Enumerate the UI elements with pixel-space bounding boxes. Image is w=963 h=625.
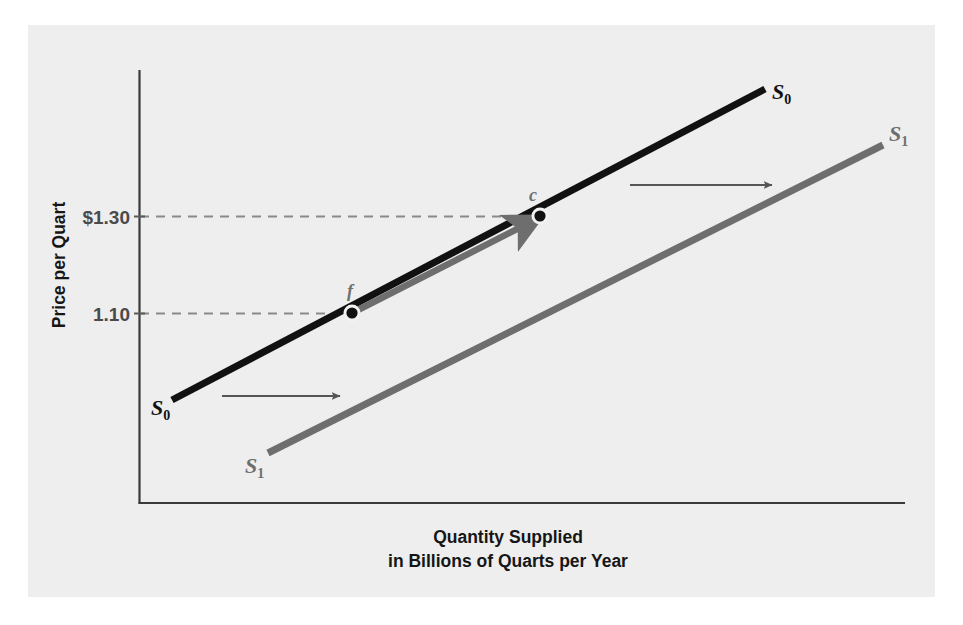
curve-label-s1-end: S1: [889, 121, 908, 149]
y-tick-labels-group: $1.30 1.10: [82, 207, 130, 325]
x-axis-title-line1: Quantity Supplied: [433, 527, 583, 547]
figure-root: $1.30 1.10 f c: [0, 0, 963, 625]
curve-label-s1-end-text: S: [889, 121, 901, 146]
curve-label-s1-start-sub: 1: [257, 466, 264, 481]
curve-label-s0-start-sub: 0: [163, 408, 170, 423]
curve-label-s0-start: S0: [151, 395, 170, 423]
curve-label-s0-end-text: S: [772, 79, 784, 104]
axes-group: [139, 70, 906, 504]
curve-label-s0-end: S0: [772, 79, 791, 107]
y-tick-label-130: $1.30: [82, 207, 130, 228]
point-labels-group: f c: [347, 185, 537, 301]
data-point-c: [534, 210, 545, 221]
curve-labels-group: S0 S0 S1 S1: [151, 79, 908, 481]
curve-label-s1-end-sub: 1: [901, 134, 908, 149]
x-axis-title-line2: in Billions of Quarts per Year: [388, 551, 628, 571]
curve-label-s0-start-text: S: [151, 395, 163, 420]
curve-label-s0-end-sub: 0: [784, 92, 791, 107]
movement-arrow-f-to-c-group: [356, 224, 527, 311]
supply-shift-chart: $1.30 1.10 f c: [0, 0, 963, 625]
y-axis-title: Price per Quart: [49, 202, 69, 329]
curve-label-s1-start-text: S: [245, 453, 257, 478]
axis-titles-group: Price per Quart Quantity Supplied in Bil…: [49, 202, 628, 571]
curve-label-s1-start: S1: [245, 453, 264, 481]
data-point-f: [346, 307, 357, 318]
point-label-c: c: [529, 185, 537, 205]
point-label-f: f: [347, 281, 355, 301]
reference-lines-group: [134, 217, 536, 314]
y-tick-label-110: 1.10: [93, 304, 130, 325]
movement-arrow-f-to-c: [356, 224, 527, 311]
